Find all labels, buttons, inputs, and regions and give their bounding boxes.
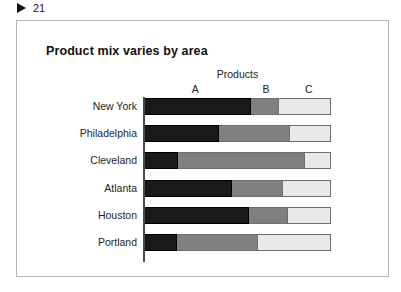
bar-row	[145, 98, 331, 115]
bar-segment-b	[251, 98, 279, 115]
category-label: Houston	[17, 207, 137, 224]
column-header-a: A	[192, 83, 199, 95]
bar-segment-b	[232, 180, 282, 197]
bar-segment-c	[290, 125, 331, 142]
bar-row	[145, 234, 331, 251]
bar-segment-c	[288, 207, 331, 224]
bar-row	[145, 207, 331, 224]
bar-segment-a	[145, 180, 232, 197]
bar-segment-c	[258, 234, 331, 251]
slide-marker-bar: 21	[0, 0, 401, 16]
category-label: New York	[17, 98, 137, 115]
category-label-axis: New YorkPhiladelphiaClevelandAtlantaHous…	[17, 97, 137, 262]
bar-segment-a	[145, 152, 178, 169]
bars-container	[145, 97, 331, 262]
bar-segment-a	[145, 234, 177, 251]
slide-number: 21	[33, 3, 45, 14]
plot-area	[143, 97, 331, 262]
bar-segment-b	[178, 152, 304, 169]
bar-segment-c	[305, 152, 331, 169]
category-label: Atlanta	[17, 180, 137, 197]
products-group-label: Products	[17, 68, 390, 80]
slide-frame: Product mix varies by area Products ABC …	[16, 20, 389, 277]
bar-segment-a	[145, 125, 219, 142]
category-label: Philadelphia	[17, 125, 137, 142]
bar-segment-a	[145, 207, 249, 224]
bar-row	[145, 180, 331, 197]
play-triangle-icon[interactable]	[17, 3, 26, 13]
bar-segment-b	[249, 207, 288, 224]
column-header-b: B	[262, 83, 269, 95]
column-header-row: ABC	[145, 83, 331, 96]
bar-segment-c	[279, 98, 331, 115]
bar-segment-b	[219, 125, 290, 142]
bar-row	[145, 125, 331, 142]
bar-row	[145, 152, 331, 169]
category-label: Cleveland	[17, 152, 137, 169]
column-header-c: C	[305, 83, 313, 95]
bar-segment-a	[145, 98, 251, 115]
page-title: Product mix varies by area	[46, 44, 208, 58]
bar-segment-b	[177, 234, 259, 251]
bar-segment-c	[283, 180, 331, 197]
category-label: Portland	[17, 234, 137, 251]
